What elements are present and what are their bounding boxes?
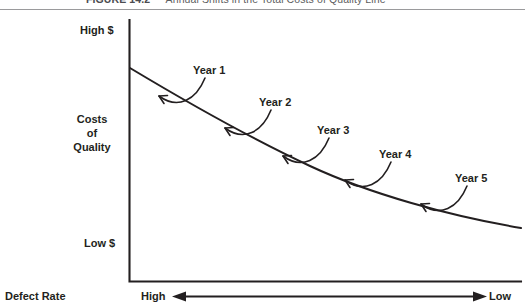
arrowhead-left-icon <box>172 292 186 302</box>
annotation-arrow-year-5 <box>421 186 467 212</box>
chart-drawing-layer <box>0 0 525 307</box>
plot-axis-lines <box>130 20 522 282</box>
defect-rate-double-arrow <box>172 292 487 302</box>
figure-container: FIGURE 14.2 Annual Shifts in the Total C… <box>0 0 525 307</box>
annotation-arrow-year-4 <box>345 162 391 188</box>
annotation-arrow-year-3 <box>283 138 329 164</box>
annotation-arrow-year-2 <box>225 110 271 136</box>
arrowhead-right-icon <box>473 292 487 302</box>
cost-of-quality-curve <box>130 68 521 228</box>
